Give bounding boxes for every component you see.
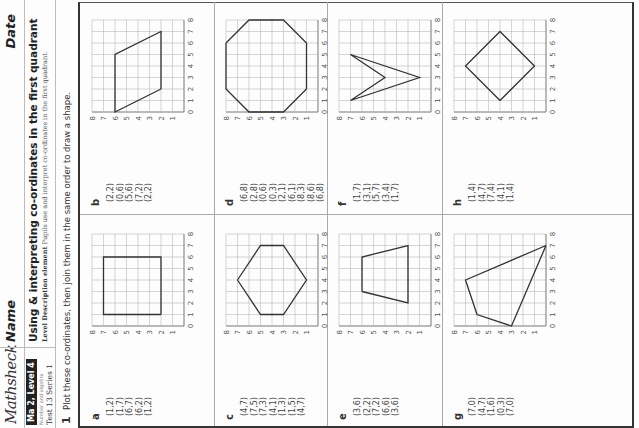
x-tick-label: 2 bbox=[321, 301, 329, 305]
coordinate-pair: (1,2) bbox=[144, 397, 154, 416]
y-tick-label: 6 bbox=[359, 329, 367, 334]
x-tick-label: 1 bbox=[321, 312, 329, 316]
coordinate-pair: (1,7) bbox=[391, 183, 401, 202]
y-tick-label: 5 bbox=[123, 116, 131, 120]
y-tick-label: 4 bbox=[135, 115, 143, 120]
level-description: Level Description element Pupils use and… bbox=[41, 51, 49, 342]
y-tick-label: 3 bbox=[146, 116, 154, 120]
x-tick-label: 4 bbox=[549, 277, 557, 282]
coordinate-pair: (7,5) bbox=[250, 397, 260, 416]
coordinate-pair: (1,3) bbox=[278, 397, 288, 416]
x-tick-label: 5 bbox=[549, 52, 557, 56]
y-tick-label: 5 bbox=[257, 330, 265, 334]
y-tick-label: 5 bbox=[370, 330, 378, 334]
x-tick-label: 8 bbox=[321, 232, 329, 236]
plotted-shape bbox=[104, 257, 162, 315]
worksheet-page: Mathsheck Name Date Ma 2, Level 4 Number… bbox=[0, 0, 639, 428]
worksheet-title: Using & interpreting co-ordinates in the… bbox=[27, 19, 39, 342]
level-description-text: Pupils use and interpret co-ordinates in… bbox=[41, 51, 49, 244]
coordinate-pair: (1,7) bbox=[116, 397, 126, 416]
x-tick-label: 2 bbox=[187, 87, 195, 91]
coordinate-grid: 01122334455667788 bbox=[88, 14, 198, 126]
coordinate-pair: (4,7) bbox=[240, 397, 250, 416]
x-tick-label: 3 bbox=[434, 289, 442, 293]
coordinate-grid: 01122334455667788 bbox=[88, 228, 198, 340]
y-tick-label: 4 bbox=[135, 329, 143, 334]
coordinate-grid: 01122334455667788 bbox=[335, 228, 445, 340]
name-label: Name bbox=[3, 300, 18, 342]
y-tick-label: 3 bbox=[508, 116, 516, 120]
y-tick-label: 7 bbox=[234, 116, 242, 120]
coordinate-pair: (8,6) bbox=[307, 183, 317, 202]
x-tick-label: 6 bbox=[321, 40, 329, 45]
y-tick-label: 6 bbox=[112, 329, 120, 334]
panel-label: b bbox=[90, 199, 101, 206]
header-rule bbox=[24, 0, 25, 428]
x-tick-label: 0 bbox=[434, 324, 442, 328]
x-tick-label: 3 bbox=[549, 75, 557, 79]
y-tick-label: 4 bbox=[497, 329, 505, 334]
x-tick-label: 1 bbox=[434, 312, 442, 316]
x-tick-label: 4 bbox=[187, 277, 195, 282]
y-tick-label: 8 bbox=[451, 330, 459, 334]
x-tick-label: 5 bbox=[549, 266, 557, 270]
x-tick-label: 8 bbox=[434, 232, 442, 236]
panel-a: a(1,2)(1,7)(6,7)(6,2)(1,2)01122334455667… bbox=[82, 215, 196, 428]
panel-g: g(7,0)(4,7)(1,6)(0,3)(7,0)01122334455667… bbox=[444, 215, 558, 428]
coordinate-pair: (1,7) bbox=[353, 183, 363, 202]
row-divider bbox=[214, 2, 215, 426]
y-tick-label: 1 bbox=[531, 116, 539, 120]
y-tick-label: 2 bbox=[405, 330, 413, 334]
y-tick-label: 3 bbox=[508, 330, 516, 334]
y-tick-label: 2 bbox=[158, 330, 166, 334]
strand-label: Number and algebra bbox=[38, 373, 44, 425]
x-tick-label: 2 bbox=[321, 87, 329, 91]
y-tick-label: 7 bbox=[100, 330, 108, 334]
x-tick-label: 5 bbox=[434, 52, 442, 56]
coordinate-grid: 01122334455667788 bbox=[450, 228, 560, 340]
y-tick-label: 5 bbox=[123, 330, 131, 334]
panel-label: d bbox=[224, 199, 235, 206]
header-rule bbox=[55, 0, 56, 428]
y-tick-label: 4 bbox=[269, 115, 277, 120]
x-tick-label: 0 bbox=[549, 110, 557, 114]
y-tick-label: 1 bbox=[416, 116, 424, 120]
y-tick-label: 8 bbox=[336, 330, 344, 334]
coordinate-pair: (0,6) bbox=[116, 183, 126, 202]
y-tick-label: 5 bbox=[257, 116, 265, 120]
x-tick-label: 4 bbox=[434, 63, 442, 68]
x-tick-label: 8 bbox=[549, 232, 557, 236]
x-tick-label: 3 bbox=[187, 75, 195, 79]
x-tick-label: 2 bbox=[434, 87, 442, 91]
coordinate-pair: (6,8) bbox=[316, 183, 326, 202]
x-tick-label: 7 bbox=[187, 243, 195, 247]
x-tick-label: 0 bbox=[321, 110, 329, 114]
panel-label: c bbox=[224, 414, 235, 420]
y-tick-label: 2 bbox=[292, 116, 300, 120]
x-tick-label: 3 bbox=[434, 75, 442, 79]
y-tick-label: 7 bbox=[347, 116, 355, 120]
coordinate-pair: (6,7) bbox=[125, 397, 135, 416]
coordinate-pair: (7,0) bbox=[506, 397, 516, 416]
y-tick-label: 8 bbox=[89, 116, 97, 120]
y-tick-label: 5 bbox=[485, 330, 493, 334]
coordinate-pair: (4,7) bbox=[297, 397, 307, 416]
y-tick-label: 5 bbox=[485, 116, 493, 120]
coordinate-pair: (6,6) bbox=[382, 397, 392, 416]
x-tick-label: 0 bbox=[321, 324, 329, 328]
y-tick-label: 2 bbox=[292, 330, 300, 334]
x-tick-label: 7 bbox=[187, 29, 195, 33]
y-tick-label: 4 bbox=[269, 329, 277, 334]
x-tick-label: 8 bbox=[321, 18, 329, 22]
x-tick-label: 5 bbox=[187, 266, 195, 270]
y-tick-label: 6 bbox=[474, 115, 482, 120]
x-tick-label: 1 bbox=[187, 98, 195, 102]
panel-h: h(1,4)(4,7)(7,4)(4,1)(1,4)01122334455667… bbox=[444, 1, 558, 214]
x-tick-label: 6 bbox=[434, 254, 442, 259]
y-tick-label: 2 bbox=[520, 330, 528, 334]
header-divider bbox=[0, 347, 55, 348]
x-tick-label: 3 bbox=[321, 75, 329, 79]
panel-f: f(1,7)(3,1)(5,7)(3,4)(1,7)01122334455667… bbox=[329, 1, 443, 214]
y-tick-label: 1 bbox=[303, 116, 311, 120]
x-tick-label: 7 bbox=[434, 243, 442, 247]
